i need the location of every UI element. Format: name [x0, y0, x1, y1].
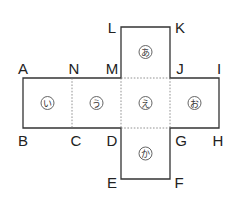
- face-label: え: [141, 99, 150, 109]
- face-top: あ: [139, 46, 152, 59]
- vertex-label-M: M: [106, 60, 119, 77]
- vertex-label-D: D: [107, 132, 118, 149]
- face-label: う: [92, 99, 101, 109]
- face-left-end: い: [41, 97, 54, 110]
- face-label: か: [141, 149, 150, 159]
- vertex-label-E: E: [107, 174, 117, 191]
- vertex-label-J: J: [176, 60, 184, 77]
- face-bottom: か: [139, 147, 152, 160]
- face-center: え: [139, 97, 152, 110]
- vertex-label-L: L: [108, 19, 116, 36]
- vertex-label-N: N: [69, 60, 80, 77]
- face-left-mid: う: [90, 97, 103, 110]
- vertex-label-I: I: [217, 60, 221, 77]
- face-label: お: [190, 99, 199, 109]
- face-right: お: [188, 97, 201, 110]
- vertex-label-K: K: [175, 19, 185, 36]
- vertex-label-F: F: [174, 174, 183, 191]
- vertex-label-C: C: [71, 132, 82, 149]
- face-label: い: [43, 99, 52, 109]
- cube-net-diagram: あ い う え お か A B C D E F G H I J K L M N: [0, 0, 240, 204]
- vertex-label-A: A: [18, 60, 28, 77]
- vertex-label-G: G: [175, 132, 187, 149]
- face-label: あ: [141, 48, 150, 58]
- vertex-label-B: B: [18, 132, 28, 149]
- vertex-label-H: H: [213, 132, 224, 149]
